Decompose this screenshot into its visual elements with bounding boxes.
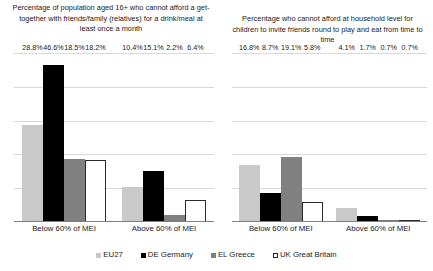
bar-group-bars: 16.8%8.7%19.1%5.8% — [232, 53, 330, 222]
bar-value-label: 18.2% — [85, 44, 105, 52]
legend-item[interactable]: EL Greece — [211, 250, 255, 260]
bar[interactable]: 28.8% — [22, 125, 43, 222]
bar-item: 4.1% — [336, 53, 357, 222]
legend-item[interactable]: UK Great Britain — [273, 250, 337, 260]
category-label: Below 60% of MEI — [232, 224, 330, 234]
panel-right-axis-baseline — [232, 221, 427, 222]
bar-group-bars: 4.1%1.7%0.7%0.7% — [330, 53, 428, 222]
bar[interactable]: 18.2% — [85, 160, 106, 222]
panel-right-plot: 16.8%8.7%19.1%5.8%4.1%1.7%0.7%0.7% — [232, 53, 427, 222]
bar-value-label: 46.6% — [43, 44, 63, 52]
bar-item: 2.2% — [164, 53, 185, 222]
category-label: Above 60% of MEI — [330, 224, 428, 234]
legend-swatch-icon — [273, 253, 278, 258]
panel-left-title: Percentage of population aged 16+ who ca… — [0, 3, 222, 35]
bar-value-label: 0.7% — [381, 44, 397, 52]
bar-value-label: 4.1% — [339, 44, 355, 52]
bar-value-label: 5.8% — [304, 44, 320, 52]
category-label: Below 60% of MEI — [14, 224, 114, 234]
bar-value-label: 18.5% — [64, 44, 84, 52]
bar-value-label: 16.8% — [239, 44, 259, 52]
bar-item: 46.6% — [43, 53, 64, 222]
panel-left-groups: 28.8%46.6%18.5%18.2%10.4%15.1%2.2%6.4% — [14, 53, 214, 222]
chart-panel-left: Percentage of population aged 16+ who ca… — [0, 0, 222, 248]
chart-panel-right: Percentage who cannot afford at househol… — [222, 0, 433, 248]
panel-right-groups: 16.8%8.7%19.1%5.8%4.1%1.7%0.7%0.7% — [232, 53, 427, 222]
bar-item: 10.4% — [122, 53, 143, 222]
bar[interactable]: 8.7% — [260, 193, 281, 222]
bar-item: 0.7% — [378, 53, 399, 222]
bar-value-label: 15.1% — [143, 44, 163, 52]
bar[interactable]: 5.8% — [302, 202, 323, 222]
legend-label: EL Greece — [218, 250, 255, 260]
bar[interactable]: 18.5% — [64, 159, 85, 222]
legend-item[interactable]: DE Germany — [141, 250, 193, 260]
bar-value-label: 2.2% — [166, 44, 182, 52]
bar[interactable]: 6.4% — [185, 200, 206, 222]
legend-swatch-icon — [211, 253, 216, 258]
bar-item: 1.7% — [357, 53, 378, 222]
bar-group-bars: 10.4%15.1%2.2%6.4% — [114, 53, 214, 222]
legend-label: DE Germany — [148, 250, 193, 260]
legend-label: EU27 — [103, 250, 123, 260]
bar[interactable]: 46.6% — [43, 65, 64, 223]
bar-group: 28.8%46.6%18.5%18.2% — [14, 53, 114, 222]
panel-left-axis-baseline — [14, 221, 214, 222]
category-label: Above 60% of MEI — [114, 224, 214, 234]
bar[interactable]: 19.1% — [281, 157, 302, 222]
bar-item: 8.7% — [260, 53, 281, 222]
bar-item: 19.1% — [281, 53, 302, 222]
bar-item: 18.5% — [64, 53, 85, 222]
bar-group: 16.8%8.7%19.1%5.8% — [232, 53, 330, 222]
bar-value-label: 28.8% — [22, 44, 42, 52]
bar-item: 18.2% — [85, 53, 106, 222]
bar[interactable]: 15.1% — [143, 171, 164, 222]
bar-value-label: 0.7% — [402, 44, 418, 52]
bar-value-label: 8.7% — [262, 44, 278, 52]
chart-figure: Percentage of population aged 16+ who ca… — [0, 0, 433, 271]
legend-item[interactable]: EU27 — [96, 250, 123, 260]
panel-right-category-labels: Below 60% of MEIAbove 60% of MEI — [232, 224, 427, 234]
panel-left-category-labels: Below 60% of MEIAbove 60% of MEI — [14, 224, 214, 234]
bar-item: 6.4% — [185, 53, 206, 222]
bar-group: 4.1%1.7%0.7%0.7% — [330, 53, 428, 222]
chart-panels: Percentage of population aged 16+ who ca… — [0, 0, 433, 248]
bar-group: 10.4%15.1%2.2%6.4% — [114, 53, 214, 222]
panel-right-title: Percentage who cannot afford at househol… — [222, 14, 433, 46]
bar[interactable]: 10.4% — [122, 187, 143, 222]
chart-legend: EU27DE GermanyEL GreeceUK Great Britain — [0, 250, 433, 260]
bar-item: 16.8% — [239, 53, 260, 222]
bar-group-bars: 28.8%46.6%18.5%18.2% — [14, 53, 114, 222]
bar-item: 0.7% — [399, 53, 420, 222]
bar-value-label: 10.4% — [122, 44, 142, 52]
bar-item: 15.1% — [143, 53, 164, 222]
bar-item: 5.8% — [302, 53, 323, 222]
bar-value-label: 19.1% — [281, 44, 301, 52]
bar-value-label: 6.4% — [187, 44, 203, 52]
legend-swatch-icon — [141, 253, 146, 258]
bar[interactable]: 16.8% — [239, 165, 260, 222]
bar-item: 28.8% — [22, 53, 43, 222]
bar[interactable]: 4.1% — [336, 208, 357, 222]
legend-label: UK Great Britain — [280, 250, 337, 260]
bar-value-label: 1.7% — [360, 44, 376, 52]
legend-swatch-icon — [96, 253, 101, 258]
panel-left-plot: 28.8%46.6%18.5%18.2%10.4%15.1%2.2%6.4% — [14, 53, 214, 222]
